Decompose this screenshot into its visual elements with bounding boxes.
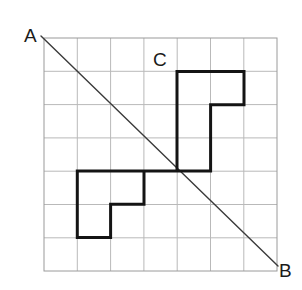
label-c: C bbox=[153, 50, 167, 69]
label-b: B bbox=[279, 261, 292, 280]
figure-container: A B C bbox=[0, 0, 302, 290]
label-a: A bbox=[24, 26, 37, 45]
geometry-figure bbox=[0, 0, 302, 290]
